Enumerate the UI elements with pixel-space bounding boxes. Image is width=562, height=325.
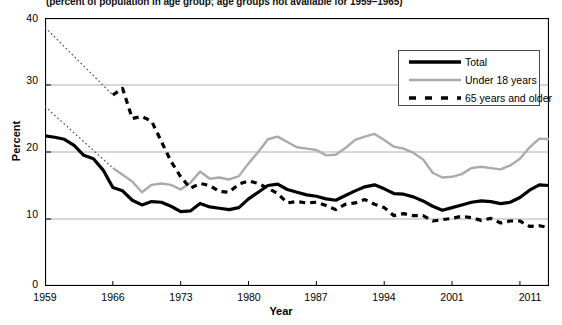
legend-label-total: Total: [465, 53, 487, 71]
legend-item-65-and-older: 65 years and older: [399, 89, 541, 107]
legend-label-65-and-older: 65 years and older: [465, 89, 552, 107]
x-tick-label-1966: 1966: [83, 291, 143, 303]
series-line-under-18-years: [113, 134, 549, 192]
y-tick-label-0: 0: [4, 278, 38, 290]
legend-label-under-18: Under 18 years: [465, 71, 537, 89]
legend-item-total: Total: [399, 53, 541, 71]
legend-swatch-under-18: [407, 71, 463, 89]
x-tick-label-1973: 1973: [151, 291, 211, 303]
x-tick-label-1994: 1994: [354, 291, 414, 303]
series-line-65-years-and-older: [113, 88, 549, 227]
y-tick-label-10: 10: [4, 208, 38, 220]
y-tick-label-20: 20: [4, 141, 38, 153]
y-tick-label-40: 40: [4, 12, 38, 24]
x-tick-label-1959: 1959: [15, 291, 75, 303]
x-tick-label-2011: 2011: [500, 291, 560, 303]
y-tick-label-30: 30: [4, 74, 38, 86]
chart-subtitle: (percent of population in age group; age…: [46, 0, 526, 7]
legend-swatch-total: [407, 53, 463, 71]
chart-legend: Total Under 18 years 65 years and older: [398, 50, 540, 106]
legend-swatch-65-and-older: [407, 89, 463, 107]
x-tick-label-1987: 1987: [286, 291, 346, 303]
x-tick-label-1980: 1980: [219, 291, 279, 303]
legend-item-under-18: Under 18 years: [399, 71, 541, 89]
x-axis-title: Year: [0, 305, 562, 317]
x-tick-label-2001: 2001: [422, 291, 482, 303]
chart-figure: (percent of population in age group; age…: [0, 0, 562, 325]
